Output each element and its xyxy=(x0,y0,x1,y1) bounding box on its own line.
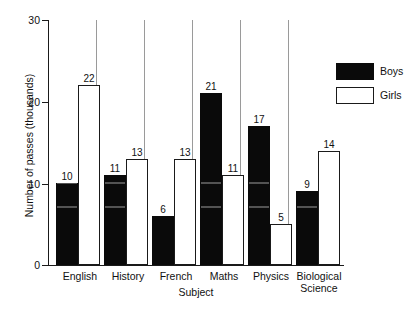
bar-value-history-girls: 13 xyxy=(117,148,157,158)
bar-physics-girls[interactable] xyxy=(270,224,292,265)
bar-maths-boys[interactable] xyxy=(200,93,222,265)
legend-item-girls[interactable]: Girls xyxy=(336,85,410,109)
bar-english-boys[interactable] xyxy=(56,183,78,265)
bar-chart-figure: 30 20 10 0 Number of passes (thousands) … xyxy=(0,0,410,316)
x-category-label-biological-science-line2: Science xyxy=(300,282,337,294)
bar-biological-science-boys[interactable] xyxy=(296,191,318,265)
bar-value-english-girls: 22 xyxy=(69,74,109,84)
x-category-label-biological-science-line1: Biological xyxy=(297,270,342,282)
bar-value-physics-girls: 5 xyxy=(261,213,301,223)
y-tick-label-30: 30 xyxy=(10,15,40,26)
y-tick-label-0: 0 xyxy=(10,260,40,271)
cropped-caption-strip xyxy=(8,309,238,316)
bar-value-biological-science-boys: 9 xyxy=(287,180,327,190)
legend-label-boys: Boys xyxy=(380,65,403,77)
bar-value-french-girls: 13 xyxy=(165,148,205,158)
x-axis-line xyxy=(48,265,344,266)
bar-french-boys[interactable] xyxy=(152,216,174,265)
plot-area: 10 22 11 13 6 13 21 11 17 5 9 14 xyxy=(48,20,340,265)
bar-value-history-boys: 11 xyxy=(95,164,135,174)
bar-value-maths-girls: 11 xyxy=(213,164,253,174)
bar-physics-boys[interactable] xyxy=(248,126,270,265)
bar-value-biological-science-girls: 14 xyxy=(309,140,349,150)
legend-swatch-boys-icon xyxy=(336,63,374,80)
bar-biological-science-girls[interactable] xyxy=(318,151,340,265)
bar-value-physics-boys: 17 xyxy=(239,115,279,125)
bar-value-english-boys: 10 xyxy=(47,172,87,182)
legend-item-boys[interactable]: Boys xyxy=(336,61,410,85)
legend-label-girls: Girls xyxy=(380,89,402,101)
legend-swatch-girls-icon xyxy=(336,87,374,104)
bar-value-french-boys: 6 xyxy=(143,205,183,215)
y-axis-title: Number of passes (thousands) xyxy=(24,46,35,246)
bar-history-boys[interactable] xyxy=(104,175,126,265)
legend: Boys Girls xyxy=(336,61,410,109)
bar-value-maths-boys: 21 xyxy=(191,82,231,92)
bar-maths-girls[interactable] xyxy=(222,175,244,265)
x-category-label-biological-science: Biological Science xyxy=(287,270,351,294)
